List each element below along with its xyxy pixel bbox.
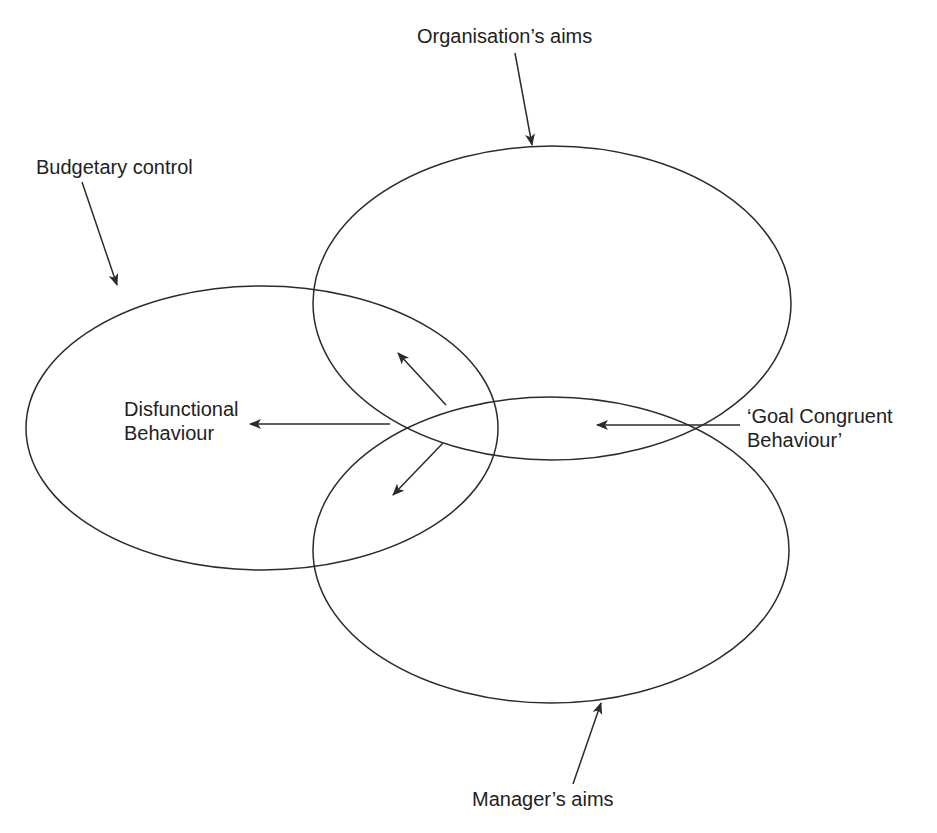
disfunctional-behaviour-label: Disfunctional Behaviour: [124, 397, 239, 445]
budgetary-pointer-arrow: [82, 182, 117, 285]
manager-aims-text: Manager’s aims: [472, 787, 614, 811]
manager-pointer-arrow: [573, 703, 601, 784]
goal-congruent-behaviour-label: ‘Goal Congruent Behaviour’: [747, 404, 893, 452]
disfunctional-text-line1: Disfunctional: [124, 397, 239, 421]
organisation-aims-text: Organisation’s aims: [417, 24, 592, 48]
budgetary-control-text: Budgetary control: [36, 155, 193, 179]
upward-conflict-arrow: [398, 353, 446, 405]
goal-congruent-text-line1: ‘Goal Congruent: [747, 404, 893, 428]
budgetary-control-label: Budgetary control: [36, 155, 193, 179]
downward-conflict-arrow: [393, 443, 443, 495]
organisation-aims-label: Organisation’s aims: [417, 24, 592, 48]
organisation-aims-ellipse: [313, 146, 791, 460]
organisation-pointer-arrow: [515, 53, 532, 145]
goal-congruent-text-line2: Behaviour’: [747, 428, 893, 452]
manager-aims-label: Manager’s aims: [472, 787, 614, 811]
budgetary-control-ellipse: [26, 286, 498, 570]
disfunctional-text-line2: Behaviour: [124, 421, 239, 445]
